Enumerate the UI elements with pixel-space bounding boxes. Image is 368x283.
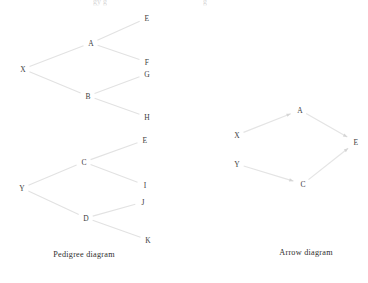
node-pedigree-C: C [81, 158, 86, 167]
edge-pedigree-Y-D [28, 191, 78, 215]
node-pedigree-E1: E [145, 14, 150, 23]
edge-pedigree-C-I [91, 164, 138, 182]
node-arrow-X: X [234, 131, 240, 140]
edge-pedigree-B-H [95, 98, 140, 114]
edge-arrow-X-A [244, 114, 291, 133]
node-pedigree-E2: E [143, 136, 148, 145]
edge-pedigree-A-E1 [97, 21, 139, 40]
node-pedigree-X: X [20, 65, 26, 74]
arrowhead-arrow-X-A [286, 114, 291, 117]
node-arrow-Y: Y [234, 160, 240, 169]
edge-arrow-A-E [306, 113, 347, 137]
edge-pedigree-X-A [30, 46, 84, 67]
caption-pedigree: Pedigree diagram [53, 250, 115, 259]
node-pedigree-A: A [88, 39, 94, 48]
edge-pedigree-X-B [29, 72, 80, 93]
node-arrow-E: E [354, 138, 359, 147]
edge-arrow-C-E [308, 148, 348, 179]
node-pedigree-F1: F [145, 58, 149, 67]
edge-pedigree-C-E2 [91, 143, 138, 160]
node-pedigree-K: K [145, 236, 151, 245]
node-arrow-C: C [300, 180, 305, 189]
node-pedigree-D: D [83, 214, 89, 223]
node-pedigree-Y: Y [19, 184, 25, 193]
edge-pedigree-B-G [95, 77, 140, 94]
edge-arrow-Y-C [244, 166, 294, 181]
node-pedigree-B: B [85, 92, 90, 101]
arrowhead-arrow-A-E [343, 133, 347, 137]
node-pedigree-I: I [144, 181, 147, 190]
caption-arrow: Arrow diagram [279, 248, 333, 257]
edge-layer [0, 0, 368, 283]
node-pedigree-G: G [144, 70, 150, 79]
arrowhead-arrow-Y-C [289, 178, 294, 181]
node-pedigree-J: J [141, 198, 144, 207]
node-arrow-A: A [297, 106, 303, 115]
edge-pedigree-Y-C [28, 165, 76, 185]
edge-pedigree-D-J [93, 204, 136, 216]
edge-pedigree-D-K [93, 220, 141, 237]
diagram-canvas: gy g g XYABCDEFGHEIJKPedigree diagramAXE… [0, 0, 368, 283]
node-pedigree-H: H [144, 113, 150, 122]
edge-pedigree-A-F1 [98, 45, 140, 59]
